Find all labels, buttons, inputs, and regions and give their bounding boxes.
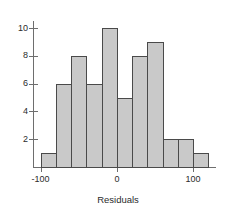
histogram-bar [117,98,133,169]
x-axis-title: Residuals [0,194,236,205]
histogram-chart: 246810 -1000100 Residuals [0,0,236,215]
histogram-bar [132,56,148,168]
histogram-bar [193,153,209,168]
histogram-bar [41,153,57,168]
histogram-bar [178,139,194,168]
histogram-bar [147,42,163,168]
histogram-bar [71,56,87,168]
histogram-bar [163,139,179,168]
histogram-bars [0,0,236,215]
histogram-bar [56,84,72,168]
histogram-bar [102,28,118,168]
plot-area: 246810 -1000100 Residuals [0,0,236,215]
histogram-bar [86,84,102,168]
